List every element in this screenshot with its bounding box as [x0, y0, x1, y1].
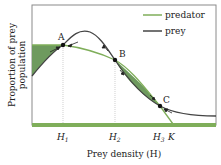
predator-curve: [32, 45, 173, 124]
point-b-label: B: [119, 49, 126, 59]
x-axis-label: Prey density (H): [87, 149, 161, 159]
tick-h2: H2: [108, 132, 121, 143]
y-axis-label-line1: Proportion of prey: [7, 22, 17, 107]
functional-response-diagram: A B C predator prey H1 H2 H3 K Prey dens…: [0, 0, 221, 165]
point-a-label: A: [57, 32, 65, 42]
point-c-label: C: [163, 95, 170, 105]
tick-h3: H3: [152, 132, 165, 143]
point-b-marker: [113, 58, 117, 62]
tick-k: K: [167, 132, 176, 142]
y-axis-label: Proportion of prey population: [7, 22, 27, 107]
point-a-marker: [61, 43, 65, 47]
x-axis-bar: [32, 123, 216, 127]
prey-curve: [32, 31, 216, 116]
plot-frame: [32, 5, 216, 125]
legend-prey-label: prey: [165, 26, 186, 36]
point-c-marker: [158, 104, 162, 108]
legend-predator-label: predator: [165, 10, 206, 20]
tick-h1: H1: [56, 132, 69, 143]
y-axis-label-line2: population: [17, 40, 27, 89]
